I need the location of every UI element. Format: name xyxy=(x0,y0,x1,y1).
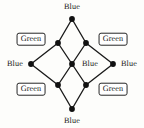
graph-edge xyxy=(72,85,86,109)
node-label-top-left-inner: Green xyxy=(17,33,46,46)
node-label-right-outer: Blue xyxy=(120,59,138,68)
graph-node-bottom-right-inner[interactable] xyxy=(83,82,89,88)
node-label-top-right-inner: Green xyxy=(99,33,128,46)
nodes-layer xyxy=(28,16,116,112)
graph-node-top-outer[interactable] xyxy=(69,16,75,22)
graph-node-right-outer[interactable] xyxy=(110,61,116,67)
graph-node-bottom-left-inner[interactable] xyxy=(55,82,61,88)
graph-edge xyxy=(58,64,72,85)
node-label-left-outer: Blue xyxy=(6,59,24,68)
node-label-top-outer: Blue xyxy=(63,2,81,11)
graph-node-bottom-outer[interactable] xyxy=(69,106,75,112)
node-label-bottom-outer: Blue xyxy=(63,116,81,125)
graph-edge xyxy=(58,19,72,43)
star-graph-diagram: BlueBlueBlueBlueBlueGreenGreenGreenGreen xyxy=(0,0,144,128)
graph-node-left-outer[interactable] xyxy=(28,61,34,67)
graph-edge xyxy=(31,43,58,64)
graph-edge xyxy=(72,19,86,43)
node-label-center: Blue xyxy=(81,59,99,68)
graph-node-top-left-inner[interactable] xyxy=(55,40,61,46)
graph-node-center[interactable] xyxy=(69,61,75,67)
node-label-bottom-right-inner: Green xyxy=(99,83,128,96)
graph-node-top-right-inner[interactable] xyxy=(83,40,89,46)
node-label-bottom-left-inner: Green xyxy=(17,83,46,96)
graph-edge xyxy=(58,43,72,64)
graph-edge xyxy=(58,85,72,109)
